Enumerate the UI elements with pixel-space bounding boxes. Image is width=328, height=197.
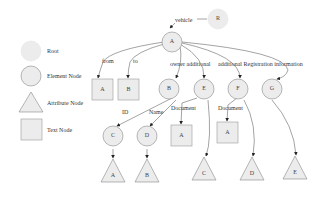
attribute-node-c-label: C (202, 170, 206, 176)
legend-attribute-icon (19, 92, 43, 112)
edge-label-to: to (133, 58, 138, 64)
edge-label-owner: owner additional (170, 61, 211, 67)
element-node-e-label: E (202, 85, 206, 91)
edge-label-name: Name (149, 109, 164, 115)
attribute-node-e-label: E (293, 169, 297, 175)
attribute-node-b-label: B (145, 172, 149, 178)
xml-tree-diagram: Root Element Node Attribute Node Text No… (0, 0, 328, 197)
text-node-document-a-2-label: A (225, 129, 230, 135)
legend-text-label: Text Node (47, 127, 72, 133)
legend-element-icon (21, 66, 41, 86)
element-node-g-label: G (270, 85, 275, 91)
element-node-b-label: B (167, 85, 171, 91)
legend-attribute-label: Attribute Node (47, 100, 83, 106)
attribute-node-a (101, 159, 125, 182)
text-node-b-label: B (126, 86, 130, 92)
attribute-node-d-label: D (250, 170, 255, 176)
legend: Root Element Node Attribute Node Text No… (19, 41, 83, 140)
attribute-node-b (135, 159, 159, 182)
legend-root-icon (21, 41, 41, 61)
attribute-node-e (283, 156, 307, 179)
edge-label-vehicle: vehicle (175, 17, 193, 23)
legend-text-icon (21, 119, 42, 140)
root-node-r-label: R (216, 15, 220, 21)
attribute-node-d (240, 157, 264, 180)
legend-root-label: Root (47, 48, 59, 54)
element-node-c-label: C (111, 132, 115, 138)
element-node-d-label: D (145, 132, 150, 138)
text-node-a-label: A (100, 86, 105, 92)
attribute-node-c (192, 157, 216, 180)
edge-label-from: from (102, 58, 114, 64)
edge-label-document-1: Document (171, 105, 196, 111)
element-node-a-label: A (170, 38, 175, 44)
nodes: R A A B B E F G C D A A A B C D E (92, 9, 307, 182)
edge-label-document-2: Document (218, 105, 243, 111)
legend-element-label: Element Node (47, 73, 82, 79)
attribute-node-a-label: A (111, 172, 116, 178)
edge-label-id: ID (122, 109, 129, 115)
edge-label-additional-registration: additional Registration information (218, 61, 303, 67)
text-node-document-a-1-label: A (179, 132, 184, 138)
